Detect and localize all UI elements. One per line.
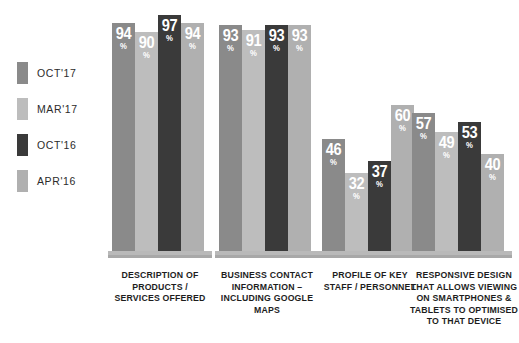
bar-value-label: 90 [137,35,157,50]
bar: 32% [345,173,368,251]
bar-group-bars: 94%90%97%94% [112,8,208,251]
category-label-line: MAPS [215,304,318,316]
category-label-line: SERVICES OFFERED [108,292,211,304]
bar-value-label: 37 [370,164,390,179]
bar-value-label: 46 [324,142,344,157]
bar: 49% [435,132,458,251]
category-label-line: INFORMATION – [215,281,318,293]
bar-value-percent-sign: % [290,44,310,53]
legend-item: OCT'16 [17,127,112,163]
bar-value-label: 60 [393,108,413,123]
bar: 97% [158,15,181,251]
bar-group-bars: 93%91%93%93% [219,8,315,251]
bar-value-percent-sign: % [414,132,434,141]
bar-value-percent-sign: % [221,44,241,53]
category-label-line: TO THAT DEVICE [409,315,519,327]
category-label-line: PROFILE OF KEY [318,269,421,281]
bar-group-bars: 46%32%37%60% [322,8,418,251]
chart-plot-area: 94%90%97%94%93%91%93%93%46%32%37%60%57%4… [112,8,510,258]
category-label-line: THAT ALLOWS VIEWING [409,281,519,293]
bar-value-percent-sign: % [460,141,480,150]
legend-swatch-icon [17,62,28,84]
bar-group: 46%32%37%60% [322,8,418,258]
bar: 57% [412,113,435,252]
category-label: RESPONSIVE DESIGNTHAT ALLOWS VIEWINGON S… [409,269,519,327]
bar-value-percent-sign: % [114,42,134,51]
bar-group: 94%90%97%94% [112,8,208,258]
legend-item: OCT'17 [17,55,112,91]
bar-value-label: 32 [347,176,367,191]
bar-value-percent-sign: % [347,192,367,201]
bar-value-label: 97 [160,18,180,33]
category-label-line: TABLETS TO OPTIMISED [409,304,519,316]
bar: 93% [288,25,311,251]
category-label: BUSINESS CONTACTINFORMATION –INCLUDING G… [215,269,318,315]
bar-value-percent-sign: % [137,51,157,60]
bar-group-base-shadow [215,255,319,258]
legend-swatch-icon [17,98,28,120]
bar-group: 93%91%93%93% [219,8,315,258]
bar-value-percent-sign: % [160,34,180,43]
bar-value-percent-sign: % [267,44,287,53]
chart-legend: OCT'17MAR'17OCT'16APR'16 [17,55,112,199]
bar-value-label: 53 [460,125,480,140]
bar: 94% [181,23,204,251]
category-label-line: BUSINESS CONTACT [215,269,318,281]
bar-value-label: 91 [244,33,264,48]
bar-value-label: 93 [221,28,241,43]
bar-value-percent-sign: % [324,158,344,167]
bar-value-label: 94 [114,26,134,41]
bar: 40% [481,154,504,251]
legend-item-label: OCT'16 [37,139,76,151]
category-label-line: RESPONSIVE DESIGN [409,269,519,281]
bar-value-percent-sign: % [244,49,264,58]
category-label-line: PRODUCTS / [108,281,211,293]
bar-value-label: 57 [414,116,434,131]
category-label-line: ON SMARTPHONES & [409,292,519,304]
legend-item: APR'16 [17,163,112,199]
bar-value-percent-sign: % [437,151,457,160]
bar: 93% [219,25,242,251]
bar-value-label: 93 [290,28,310,43]
bar: 91% [242,30,265,251]
bar-value-percent-sign: % [393,124,413,133]
bar: 46% [322,139,345,251]
category-label-line: INCLUDING GOOGLE [215,292,318,304]
category-label: DESCRIPTION OFPRODUCTS /SERVICES OFFERED [108,269,211,304]
legend-item-label: OCT'17 [37,67,76,79]
category-label: PROFILE OF KEYSTAFF / PERSONNEL [318,269,421,292]
category-axis-labels: DESCRIPTION OFPRODUCTS /SERVICES OFFERED… [112,269,510,341]
bar-value-label: 93 [267,28,287,43]
legend-swatch-icon [17,170,28,192]
bar-value-label: 49 [437,135,457,150]
bar: 37% [368,161,391,251]
bar-group-base-shadow [318,255,422,258]
bar: 53% [458,122,481,251]
bar: 90% [135,32,158,251]
bar-value-percent-sign: % [483,173,503,182]
bar-value-label: 94 [183,26,203,41]
bar-value-label: 40 [483,157,503,172]
bar: 60% [391,105,414,251]
category-label-line: STAFF / PERSONNEL [318,281,421,293]
bar: 94% [112,23,135,251]
bar: 93% [265,25,288,251]
category-label-line: DESCRIPTION OF [108,269,211,281]
bar-group-base-shadow [108,255,212,258]
legend-item: MAR'17 [17,91,112,127]
legend-item-label: APR'16 [37,175,76,187]
bar-group: 57%49%53%40% [412,8,508,258]
legend-item-label: MAR'17 [37,103,78,115]
legend-swatch-icon [17,134,28,156]
bar-value-percent-sign: % [183,42,203,51]
bar-group-base-shadow [408,255,512,258]
bar-group-bars: 57%49%53%40% [412,8,508,251]
bar-value-percent-sign: % [370,180,390,189]
